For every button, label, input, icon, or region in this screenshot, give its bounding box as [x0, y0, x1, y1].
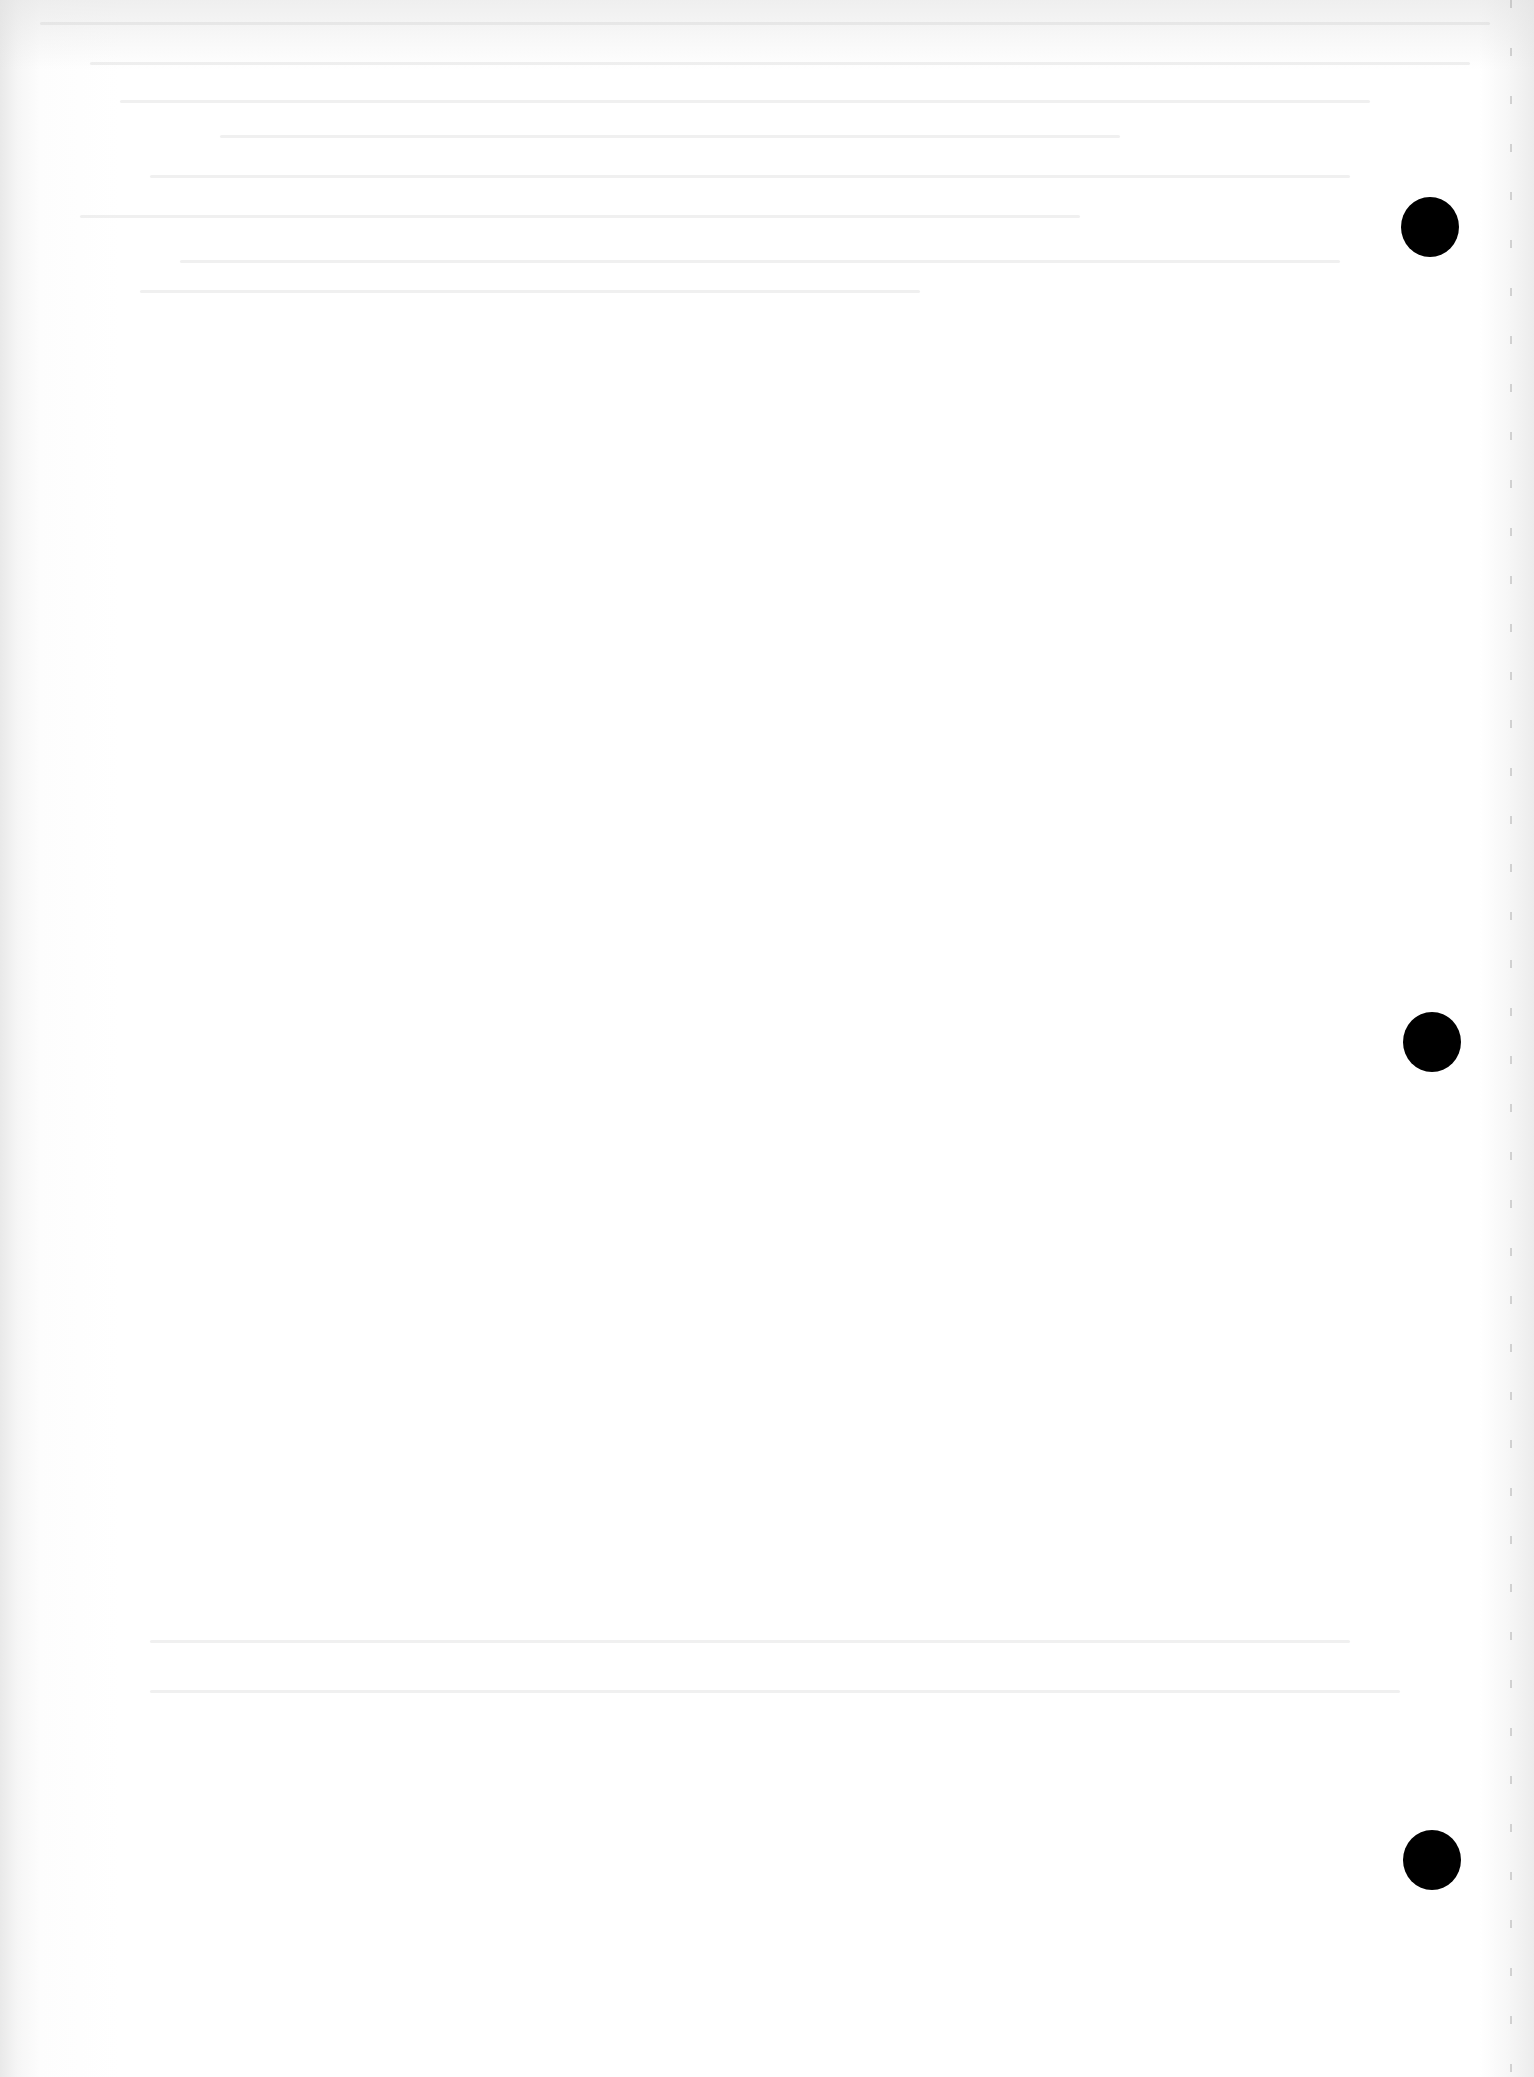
bleed-through-line: [150, 175, 1350, 178]
perforation-edge: [1510, 0, 1512, 2077]
scan-shadow: [0, 0, 1534, 70]
bleed-through-line: [220, 135, 1120, 138]
bleed-through-line: [90, 62, 1470, 65]
bleed-through-line: [150, 1640, 1350, 1643]
bleed-through-line: [80, 215, 1080, 218]
bleed-through-line: [150, 1690, 1400, 1693]
punch-hole: [1403, 1830, 1461, 1890]
punch-hole: [1403, 1012, 1461, 1072]
bleed-through-line: [180, 260, 1340, 263]
scanned-page: [0, 0, 1534, 2077]
bleed-through-line: [120, 100, 1370, 103]
punch-hole: [1401, 197, 1459, 257]
bleed-through-line: [40, 22, 1490, 25]
bleed-through-line: [140, 290, 920, 293]
